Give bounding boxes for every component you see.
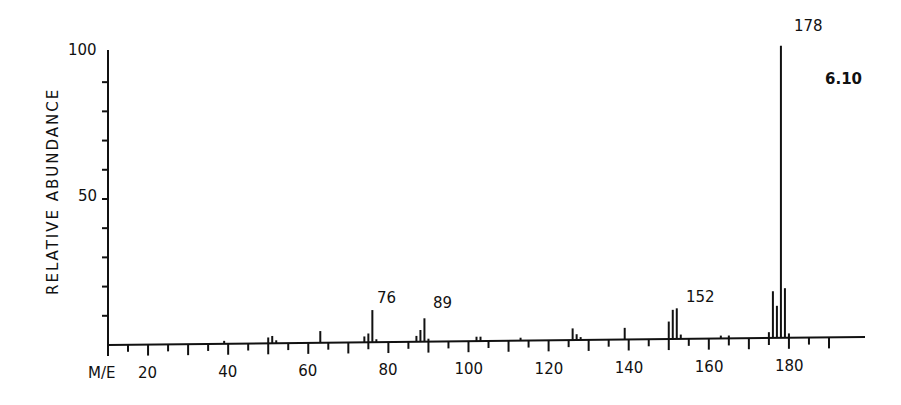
x-tick-label: 180	[775, 357, 804, 375]
x-tick-label: 140	[615, 359, 644, 377]
mass-spectrum-chart: 20406080100120140160180 RELATIVE ABUNDAN…	[0, 0, 901, 405]
x-tick-label: 20	[138, 364, 157, 382]
x-tick-label: 100	[454, 360, 483, 378]
x-tick-label: 160	[695, 358, 724, 376]
x-tick-label: 80	[378, 361, 397, 379]
annotation-label: 6.10	[825, 70, 862, 88]
x-axis	[108, 337, 865, 356]
peak-label-178: 178	[794, 17, 823, 35]
y-tick-label-50: 50	[78, 187, 97, 205]
peak-label-76: 76	[377, 289, 396, 307]
x-tick-label: 40	[218, 363, 237, 381]
peak-label-89: 89	[433, 294, 452, 312]
x-axis-line	[108, 337, 865, 345]
x-axis-title: M/E	[88, 364, 115, 382]
y-axis	[102, 50, 108, 355]
y-axis-title: RELATIVE ABUNDANCE	[44, 88, 62, 295]
peak-label-152: 152	[686, 288, 715, 306]
x-tick-label: 60	[298, 362, 317, 380]
x-tick-label: 120	[535, 360, 564, 378]
y-tick-label-100: 100	[68, 41, 97, 59]
x-tick-labels: 20406080100120140160180	[138, 357, 804, 381]
